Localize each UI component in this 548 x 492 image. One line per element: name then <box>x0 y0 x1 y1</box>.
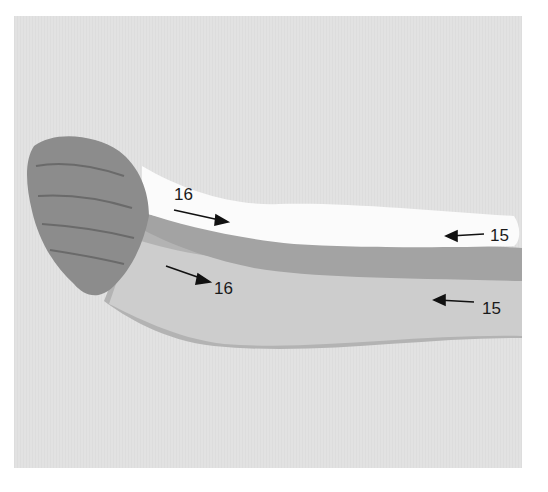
forearm-illustration <box>14 16 522 468</box>
label-16-upper: 16 <box>174 186 193 203</box>
label-15-upper: 15 <box>490 227 509 244</box>
label-15-lower: 15 <box>482 300 501 317</box>
forearm-taping-photo: 16 16 15 15 <box>14 16 522 468</box>
label-16-lower: 16 <box>214 280 233 297</box>
